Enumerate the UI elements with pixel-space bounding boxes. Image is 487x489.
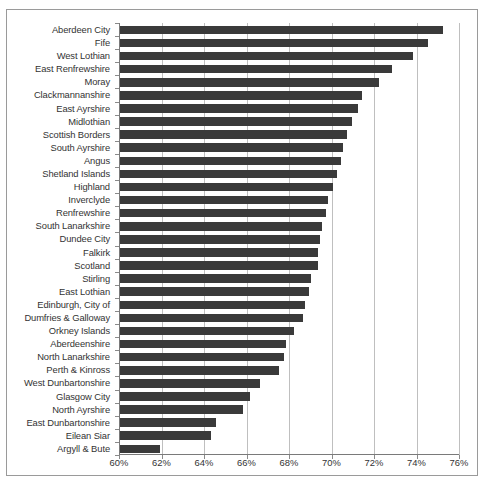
bar-row: [120, 272, 460, 286]
y-axis-label: East Dunbartonshire: [26, 416, 110, 430]
x-axis-tick-label: 70%: [322, 457, 341, 468]
chart-frame: Aberdeen CityFifeWest LothianEast Renfre…: [6, 9, 478, 476]
plot-area: [119, 23, 459, 455]
bar: [120, 274, 311, 283]
bar-row: [120, 167, 460, 181]
bar: [120, 353, 284, 362]
bar-row: [120, 154, 460, 168]
y-axis-label: East Renfrewshire: [35, 62, 110, 76]
y-axis-label: Inverclyde: [68, 193, 110, 207]
bar: [120, 183, 333, 192]
y-axis-label: West Lothian: [57, 49, 110, 63]
x-axis-tick-labels: 60%62%64%66%68%70%72%74%76%: [119, 457, 459, 473]
bar: [120, 209, 326, 218]
y-axis-label: North Lanarkshire: [37, 350, 110, 364]
bar: [120, 287, 309, 296]
bar-row: [120, 193, 460, 207]
y-axis-label: North Ayrshire: [52, 403, 110, 417]
x-axis-line: [119, 454, 459, 455]
bar-row: [120, 75, 460, 89]
bar: [120, 405, 243, 414]
bar-row: [120, 403, 460, 417]
y-axis-label: Midlothian: [68, 115, 110, 129]
bar: [120, 26, 443, 35]
bar-row: [120, 350, 460, 364]
bar-row: [120, 62, 460, 76]
bar-row: [120, 363, 460, 377]
y-axis-label: Scottish Borders: [43, 128, 110, 142]
bar: [120, 170, 337, 179]
bar-row: [120, 390, 460, 404]
bar-row: [120, 141, 460, 155]
y-axis-label: Moray: [84, 75, 110, 89]
bar: [120, 78, 379, 87]
bar-row: [120, 88, 460, 102]
y-axis-label: Aberdeen City: [52, 23, 110, 37]
bar-row: [120, 36, 460, 50]
bar: [120, 52, 413, 61]
bar-row: [120, 376, 460, 390]
bar-row: [120, 324, 460, 338]
y-axis-label: East Ayrshire: [56, 102, 110, 116]
bar-row: [120, 298, 460, 312]
x-axis-tick-label: 60%: [110, 457, 129, 468]
bar: [120, 222, 322, 231]
y-axis-label: Fife: [95, 36, 110, 50]
bar: [120, 65, 392, 74]
y-axis-label: Edinburgh, City of: [37, 298, 110, 312]
bar: [120, 301, 305, 310]
bar: [120, 340, 286, 349]
bar-row: [120, 115, 460, 129]
y-axis-category-labels: Aberdeen CityFifeWest LothianEast Renfre…: [7, 23, 114, 455]
bar-row: [120, 180, 460, 194]
bar-row: [120, 311, 460, 325]
y-axis-label: Falkirk: [83, 246, 110, 260]
bar-row: [120, 416, 460, 430]
y-axis-label: Dundee City: [60, 232, 111, 246]
x-axis-tick-label: 74%: [407, 457, 426, 468]
y-axis-label: Stirling: [82, 272, 110, 286]
bar-row: [120, 285, 460, 299]
bar: [120, 418, 216, 427]
y-axis-label: Shetland Islands: [42, 167, 110, 181]
y-axis-label: Eilean Siar: [66, 429, 110, 443]
y-axis-line: [119, 23, 120, 455]
bar: [120, 143, 343, 152]
bar-chart: Aberdeen CityFifeWest LothianEast Renfre…: [7, 10, 477, 475]
bar-row: [120, 429, 460, 443]
y-axis-label: Glasgow City: [56, 390, 110, 404]
y-axis-label: East Lothian: [59, 285, 110, 299]
bar: [120, 327, 294, 336]
bar: [120, 117, 352, 126]
y-axis-label: Renfrewshire: [56, 206, 110, 220]
y-axis-label: South Lanarkshire: [36, 219, 110, 233]
y-axis-label: Clackmannanshire: [34, 88, 110, 102]
bar: [120, 379, 260, 388]
y-axis-label: Dumfries & Galloway: [24, 311, 110, 325]
bar: [120, 445, 160, 454]
y-axis-label: South Ayrshire: [51, 141, 110, 155]
x-axis-tick-label: 76%: [450, 457, 469, 468]
bar-row: [120, 232, 460, 246]
bar: [120, 39, 428, 48]
x-axis-tick-label: 64%: [195, 457, 214, 468]
bar: [120, 392, 250, 401]
bar: [120, 248, 318, 257]
bar: [120, 91, 362, 100]
y-axis-label: West Dunbartonshire: [24, 376, 110, 390]
bar-row: [120, 23, 460, 37]
y-axis-label: Highland: [74, 180, 110, 194]
y-axis-label: Orkney Islands: [49, 324, 110, 338]
bar-row: [120, 246, 460, 260]
bar-row: [120, 337, 460, 351]
bar: [120, 314, 303, 323]
bar-row: [120, 49, 460, 63]
bar: [120, 235, 320, 244]
bar-row: [120, 259, 460, 273]
bar-row: [120, 219, 460, 233]
x-axis-tick-label: 62%: [152, 457, 171, 468]
y-axis-label: Scotland: [74, 259, 110, 273]
bar: [120, 157, 341, 166]
bar-row: [120, 102, 460, 116]
y-axis-label: Angus: [84, 154, 110, 168]
